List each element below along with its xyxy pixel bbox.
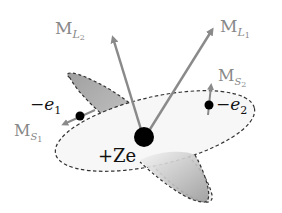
atom-diagram: ML2 ML1 MS2 MS1 −e1 −e2 +Ze xyxy=(0,0,282,213)
MS2-label: MS2 xyxy=(218,66,246,89)
nucleus-label: +Ze xyxy=(98,145,136,166)
ML2-label: ML2 xyxy=(55,18,85,42)
lower-lobe xyxy=(140,152,209,202)
electron-1 xyxy=(76,112,85,121)
diagram-canvas: ML2 ML1 MS2 MS1 −e1 −e2 +Ze xyxy=(0,0,282,213)
nucleus xyxy=(134,127,154,147)
electron-2 xyxy=(205,101,214,110)
ML1-label: ML1 xyxy=(220,16,250,40)
e1-label: −e1 xyxy=(30,94,61,117)
MS1-label: MS1 xyxy=(14,121,42,144)
